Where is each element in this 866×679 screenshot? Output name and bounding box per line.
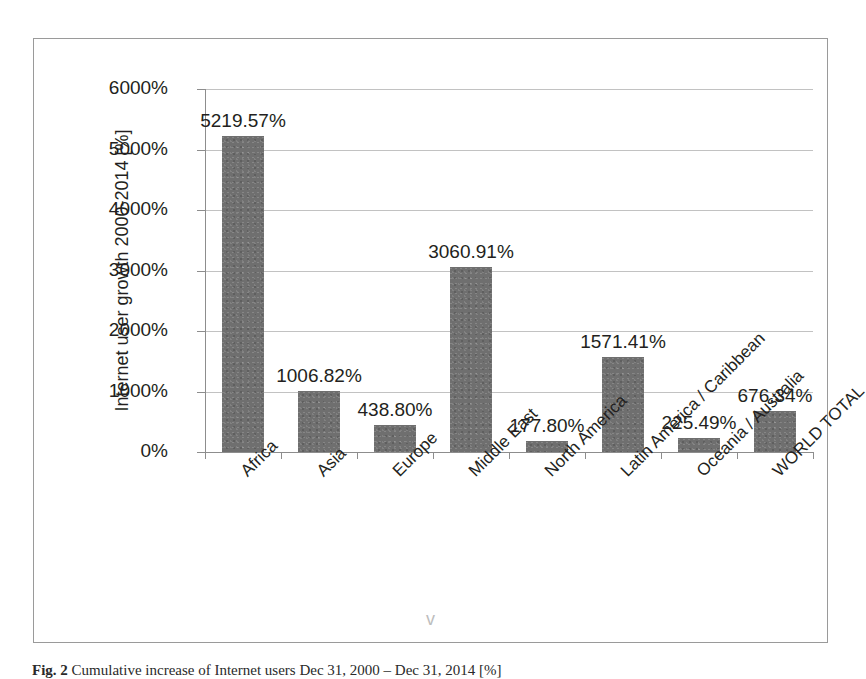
figure-caption: Fig. 2 Cumulative increase of Internet u… (32, 662, 832, 679)
y-axis-tick-label: 6000% (48, 77, 168, 99)
bar-value-label: 3060.91% (428, 241, 514, 263)
caption-body: Cumulative increase of Internet users De… (72, 662, 502, 678)
bar-slot: 5219.57% (205, 89, 281, 452)
y-axis-tick (197, 392, 205, 393)
caption-figure-number: Fig. 2 (32, 662, 68, 678)
bar-series: 5219.57%1006.82%438.80%3060.91%177.80%15… (205, 89, 813, 452)
x-axis-tick (433, 452, 434, 459)
y-axis-tick-label: 0% (48, 440, 168, 462)
x-axis-tick (205, 452, 206, 459)
x-axis-tick (585, 452, 586, 459)
bar[interactable] (450, 267, 492, 452)
y-axis-tick (197, 452, 205, 453)
y-axis-tick-label: 5000% (48, 138, 168, 160)
bar-chart: Internet user growth 2000-2014 [%] 0%100… (172, 89, 813, 452)
x-axis-tick (813, 452, 814, 459)
bar-value-label: 438.80% (357, 399, 432, 421)
bar[interactable] (222, 136, 264, 452)
y-axis-tick (197, 271, 205, 272)
x-axis-tick (661, 452, 662, 459)
y-axis-tick-label: 3000% (48, 259, 168, 281)
y-axis-tick (197, 331, 205, 332)
bar-value-label: 5219.57% (200, 110, 286, 132)
y-axis-tick (197, 89, 205, 90)
bar-slot: 1006.82% (281, 89, 357, 452)
x-axis-tick (357, 452, 358, 459)
y-axis-tick (197, 150, 205, 151)
bar[interactable] (298, 391, 340, 452)
x-axis-tick (281, 452, 282, 459)
bar-value-label: 1571.41% (580, 331, 666, 353)
y-axis-tick-label: 1000% (48, 380, 168, 402)
bar-slot: 177.80% (509, 89, 585, 452)
y-axis-tick-label: 4000% (48, 198, 168, 220)
bar-slot: 438.80% (357, 89, 433, 452)
scan-artifact-mark: v (422, 612, 440, 626)
x-axis-tick (737, 452, 738, 459)
bar-slot: 3060.91% (433, 89, 509, 452)
y-axis-tick-label: 2000% (48, 319, 168, 341)
x-axis-tick (509, 452, 510, 459)
y-axis-tick (197, 210, 205, 211)
bar-value-label: 1006.82% (276, 365, 362, 387)
